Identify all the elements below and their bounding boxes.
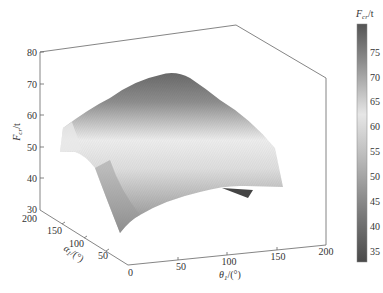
svg-text:θ1/(°): θ1/(°) <box>219 269 241 282</box>
svg-text:75: 75 <box>370 47 380 58</box>
svg-text:45: 45 <box>370 196 380 207</box>
z-axis-label: Fcr/t <box>11 123 24 142</box>
z-axis-tick-labels: 80 70 60 50 40 30 <box>27 47 37 215</box>
x-axis-label: θ1/(°) <box>219 269 241 282</box>
svg-text:60: 60 <box>370 121 380 132</box>
svg-text:200: 200 <box>319 246 334 257</box>
svg-text:50: 50 <box>370 171 380 182</box>
svg-text:55: 55 <box>370 146 380 157</box>
svg-text:50: 50 <box>98 250 108 261</box>
svg-text:50: 50 <box>176 261 186 272</box>
svg-text:50: 50 <box>27 142 37 153</box>
svg-text:70: 70 <box>370 72 380 83</box>
colorbar-title: Fcr/t <box>355 8 374 21</box>
svg-text:60: 60 <box>27 110 37 121</box>
svg-text:Fcr/t: Fcr/t <box>11 123 24 142</box>
x-axis-tick-labels: 50 100 150 200 <box>176 246 334 272</box>
svg-text:65: 65 <box>370 96 380 107</box>
svg-text:35: 35 <box>370 246 380 257</box>
svg-text:40: 40 <box>27 173 37 184</box>
svg-text:0: 0 <box>128 267 133 278</box>
svg-text:40: 40 <box>370 221 380 232</box>
svg-text:150: 150 <box>47 225 62 236</box>
svg-text:70: 70 <box>27 79 37 90</box>
svg-text:80: 80 <box>27 47 37 58</box>
surface <box>60 73 283 233</box>
z-axis-ticks <box>40 52 44 178</box>
colorbar: Fcr/t 75 70 65 60 55 50 45 40 35 <box>355 8 380 262</box>
svg-text:200: 200 <box>22 213 37 224</box>
svg-text:150: 150 <box>271 251 286 262</box>
surface-chart: 80 70 60 50 40 30 Fcr/t 200 150 100 50 0… <box>0 0 383 293</box>
svg-text:100: 100 <box>222 256 237 267</box>
